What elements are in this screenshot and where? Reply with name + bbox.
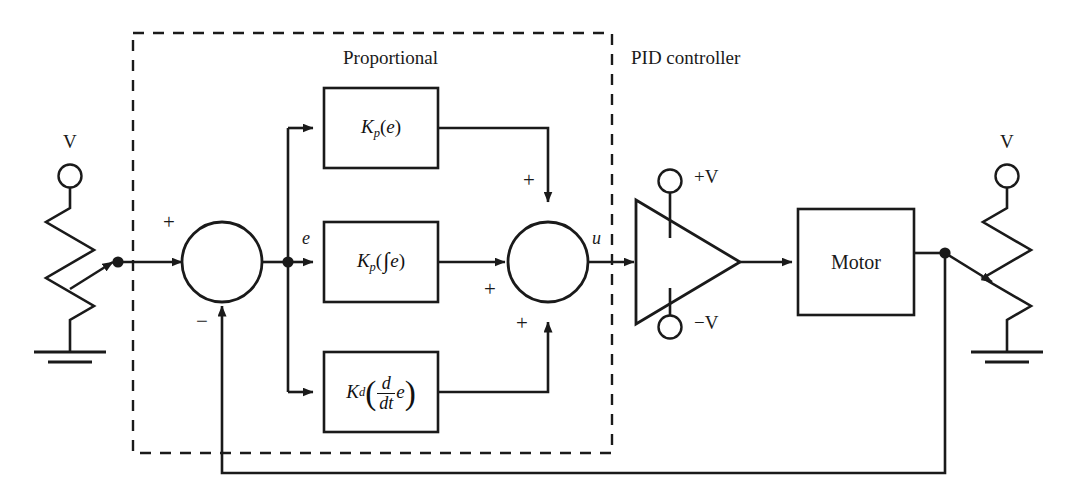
feedback-potentiometer-resistor	[983, 188, 1031, 344]
proportional-section-label: Proportional	[343, 47, 438, 69]
input-potentiometer-resistor	[46, 188, 94, 344]
pid-control-block-diagram: Proportional PID controller V V + − + + …	[0, 0, 1081, 495]
proportional-block-formula: Kp(e)	[324, 88, 438, 168]
input-potentiometer-wiper	[70, 262, 113, 289]
amplifier-positive-supply-label: +V	[694, 166, 718, 188]
sum-junction-left-plus-sign: +	[484, 277, 496, 302]
error-summing-junction	[182, 222, 262, 302]
derivative-output-wire	[438, 322, 548, 392]
pid-controller-label: PID controller	[631, 47, 740, 69]
feedback-potentiometer-voltage-label: V	[1000, 131, 1014, 153]
input-potentiometer-voltage-label: V	[63, 131, 77, 153]
positive-supply-terminal	[659, 170, 682, 193]
sum-junction-top-plus-sign: +	[523, 168, 535, 193]
amplifier-triangle	[636, 200, 740, 324]
error-signal-label: e	[302, 228, 310, 249]
control-summing-junction	[508, 222, 588, 302]
input-voltage-terminal	[59, 165, 82, 188]
control-signal-label: u	[592, 228, 601, 249]
negative-supply-terminal	[659, 316, 682, 339]
error-junction-plus-sign: +	[163, 210, 175, 235]
amplifier-negative-supply-label: −V	[694, 312, 718, 334]
feedback-voltage-terminal	[996, 165, 1019, 188]
diagram-canvas	[0, 0, 1081, 495]
sum-junction-bottom-plus-sign: +	[516, 311, 528, 336]
derivative-block-formula: Kd(ddte)	[324, 352, 438, 432]
error-junction-minus-sign: −	[196, 309, 208, 334]
motor-block-label: Motor	[798, 209, 914, 315]
feedback-potentiometer-wiper	[945, 253, 992, 282]
integral-block-formula: Kp(∫e)	[324, 222, 438, 302]
